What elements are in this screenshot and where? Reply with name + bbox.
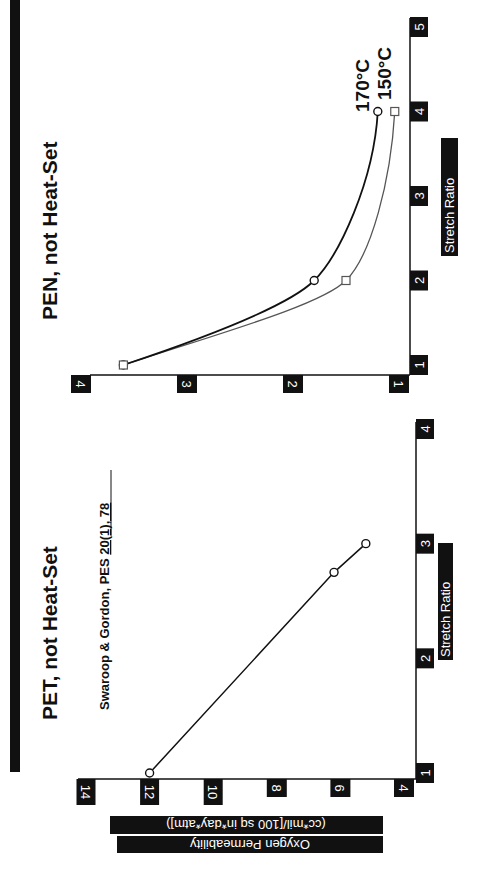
y-tick-label: 8 (269, 784, 284, 791)
pet-x-ticks: 1234 (416, 419, 434, 783)
y-axis-label: (cc*mil/[100 sq in*day*atm]) Oxygen Perm… (110, 816, 383, 853)
pen-legend-150: 150°C (374, 47, 395, 100)
pen-series-markers (119, 108, 398, 370)
y-tick-label: 6 (332, 784, 347, 791)
pen-x-label: Stretch Ratio (442, 178, 457, 253)
circle-marker-icon (330, 568, 338, 576)
circle-marker-icon (374, 108, 382, 116)
y-tick-label: 12 (142, 785, 157, 799)
y-tick-label: 14 (78, 785, 93, 799)
pen-panel: PEN, not Heat-Set 1234 12345 Stretch Rat… (38, 17, 458, 393)
square-marker-icon (342, 277, 350, 285)
pen-legend-170: 170°C (352, 59, 373, 112)
y-tick-label: 4 (73, 380, 88, 387)
y-tick-label: 2 (285, 380, 300, 387)
pet-citation-authors: Swaroop & Gordon, PES (97, 555, 112, 710)
pen-title: PEN, not Heat-Set (38, 141, 61, 320)
y-axis-label-units: (cc*mil/[100 sq in*day*atm]) (166, 817, 326, 832)
pet-y-ticks: 468101214 (77, 779, 415, 805)
pen-x-ticks: 12345 (410, 17, 428, 375)
x-tick-label: 1 (418, 769, 433, 776)
circle-marker-icon (310, 277, 318, 285)
y-tick-label: 1 (391, 380, 406, 387)
x-tick-label: 4 (418, 425, 433, 432)
pet-title: PET, not Heat-Set (38, 546, 61, 720)
x-tick-label: 2 (418, 655, 433, 662)
pet-citation: Swaroop & Gordon, PES 20(1), 78 (97, 503, 112, 710)
pet-series-line (150, 544, 366, 773)
pen-y-ticks: 1234 (71, 375, 409, 393)
x-tick-label: 4 (412, 108, 427, 115)
pet-panel: PET, not Heat-Set Swaroop & Gordon, PES … (38, 419, 453, 805)
circle-marker-icon (362, 540, 370, 548)
pen-series-150-line (123, 112, 394, 366)
square-marker-icon (119, 361, 127, 369)
pet-citation-ref: 20(1), 78 (97, 503, 112, 555)
x-tick-label: 5 (412, 23, 427, 30)
circle-marker-icon (146, 769, 154, 777)
square-marker-icon (391, 108, 399, 116)
pen-series-170-line (123, 112, 377, 366)
y-tick-label: 4 (396, 784, 411, 791)
x-tick-label: 3 (418, 540, 433, 547)
y-tick-label: 3 (179, 380, 194, 387)
x-tick-label: 1 (412, 361, 427, 368)
x-tick-label: 3 (412, 192, 427, 199)
y-axis-label-title: Oxygen Permeability (190, 837, 310, 852)
x-tick-label: 2 (412, 277, 427, 284)
pet-x-label: Stretch Ratio (438, 582, 453, 657)
header-rule (10, 0, 20, 772)
figure: PEN, not Heat-Set 1234 12345 Stretch Rat… (0, 0, 482, 870)
y-tick-label: 10 (205, 785, 220, 799)
